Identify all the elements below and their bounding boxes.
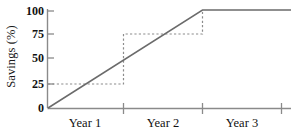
- series-continuous-savings: [48, 10, 291, 108]
- y-tick-label-0: 0: [16, 102, 44, 114]
- y-tick-label-25: 25: [16, 78, 44, 90]
- y-tick-label-75: 75: [16, 28, 44, 40]
- x-category-label-year-2: Year 2: [128, 117, 198, 130]
- y-tick-label-50: 50: [16, 52, 44, 64]
- savings-chart: Savings (%) 100 75 50 25 0 Year 1 Year 2…: [0, 0, 295, 136]
- x-category-label-year-3: Year 3: [207, 117, 277, 130]
- y-tick-label-100: 100: [16, 5, 44, 17]
- x-category-label-year-1: Year 1: [50, 117, 120, 130]
- series-step-savings: [48, 10, 203, 84]
